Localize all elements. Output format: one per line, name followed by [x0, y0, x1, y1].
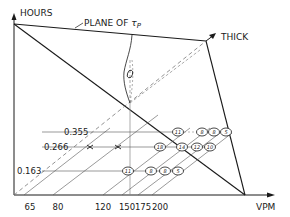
plane-label-leader	[75, 23, 83, 28]
svg-text:80: 80	[53, 202, 64, 212]
svg-text:8: 8	[149, 168, 152, 174]
svg-text:5: 5	[224, 129, 227, 135]
svg-text:11: 11	[175, 129, 181, 135]
thick-label: THICK	[220, 32, 249, 42]
hours-axis-arrow-icon	[12, 13, 17, 20]
iso-lines	[24, 115, 232, 195]
vpm-axis-arrow-icon	[267, 193, 275, 198]
level-label: 0.266	[44, 142, 68, 152]
intersection-dashed-line	[130, 50, 200, 103]
svg-text:120: 120	[95, 202, 111, 212]
svg-text:18: 18	[157, 144, 163, 150]
svg-text:175: 175	[135, 202, 151, 212]
svg-text:200: 200	[152, 202, 168, 212]
svg-text:8: 8	[200, 129, 203, 135]
x-tick-labels: 65 80 120 150 175 200	[25, 202, 169, 212]
level-label: 0.355	[64, 127, 88, 137]
contour-curve-dashed	[130, 60, 133, 103]
plane-label: PLANE OF τP	[84, 18, 142, 30]
vpm-label: VPM	[256, 202, 275, 212]
svg-text:14: 14	[179, 144, 185, 150]
svg-text:150: 150	[119, 202, 135, 212]
svg-text:8: 8	[212, 129, 215, 135]
svg-text:8: 8	[163, 168, 166, 174]
svg-text:11: 11	[125, 168, 131, 174]
svg-text:5: 5	[176, 168, 179, 174]
svg-text:10: 10	[207, 144, 213, 150]
svg-text:65: 65	[25, 202, 36, 212]
diagram-canvas: 11 8 8 5 18 14 12 10 11 8 8 5 HOURS PLAN…	[0, 0, 290, 217]
plane-right-edge	[206, 41, 245, 195]
level-label: 0.163	[17, 166, 41, 176]
hours-label: HOURS	[20, 8, 53, 18]
svg-text:12: 12	[194, 144, 200, 150]
contour-curve	[124, 35, 132, 103]
